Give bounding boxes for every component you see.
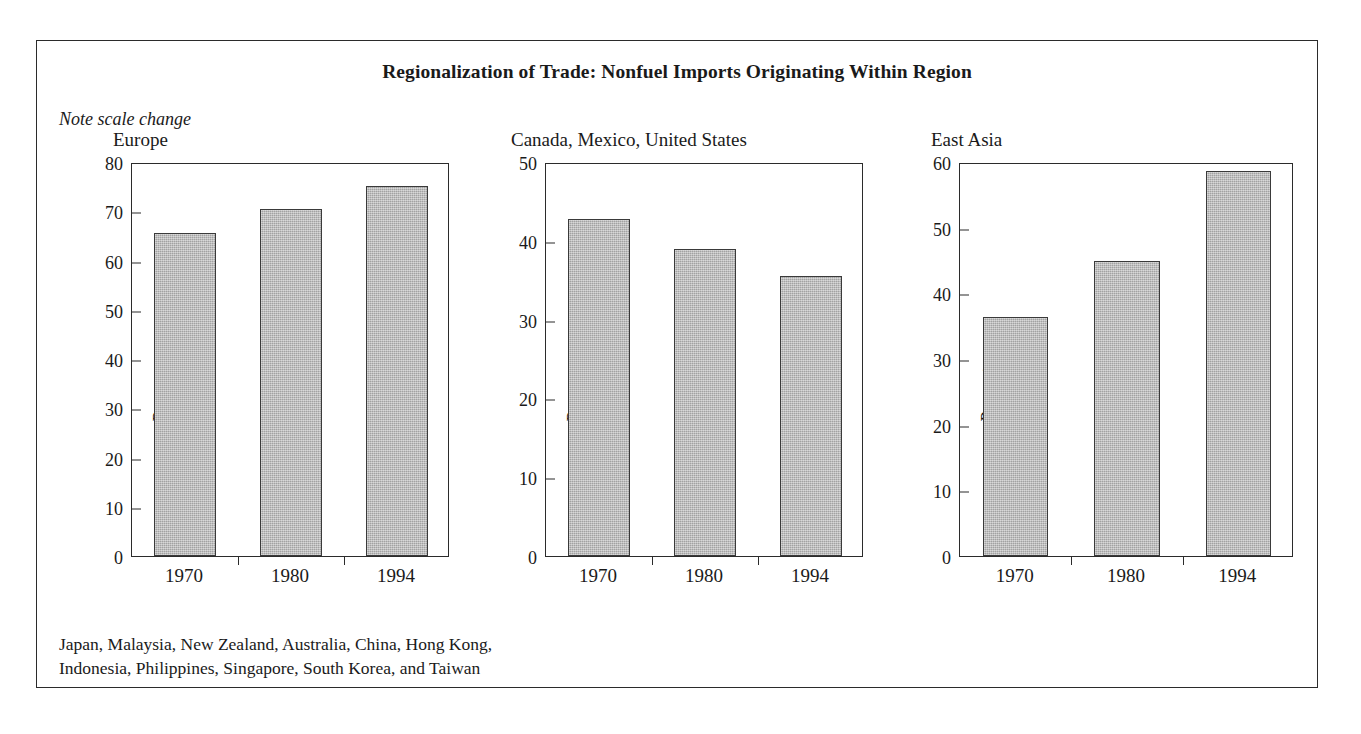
y-axis-tick-mark <box>132 311 141 312</box>
y-axis-tick-label: 50 <box>506 155 546 173</box>
bars-layer <box>960 164 1292 556</box>
page-title: Regionalization of Trade: Nonfuel Import… <box>37 61 1317 83</box>
x-axis-tick-label: 1970 <box>165 565 203 587</box>
y-axis-tick-label: 0 <box>92 549 132 567</box>
y-axis-tick-label: 20 <box>506 391 546 409</box>
y-axis-tick-mark <box>132 262 141 263</box>
x-axis-tick-mark <box>758 556 759 565</box>
y-axis-tick-label: 40 <box>920 286 960 304</box>
bar <box>780 276 842 556</box>
y-axis-tick-label: 30 <box>92 401 132 419</box>
y-axis-tick-mark <box>960 295 969 296</box>
y-axis-tick-mark <box>960 361 969 362</box>
note-scale-change: Note scale change <box>59 109 191 130</box>
bar <box>674 249 736 556</box>
x-axis-tick-mark <box>344 556 345 565</box>
bar <box>366 186 428 556</box>
x-axis-tick-label: 1994 <box>791 565 829 587</box>
chart-panel-europe: Europe Percent 01020304050607080 1970198… <box>55 129 459 629</box>
y-axis-tick-label: 60 <box>920 155 960 173</box>
chart-panel-north-america: Canada, Mexico, United States Percent 01… <box>469 129 873 629</box>
y-axis-tick-label: 30 <box>506 313 546 331</box>
y-axis-tick-mark <box>546 242 555 243</box>
y-axis-tick-mark <box>132 213 141 214</box>
x-axis-tick-mark <box>652 556 653 565</box>
y-axis-tick-label: 50 <box>92 303 132 321</box>
y-axis-tick-label: 50 <box>920 221 960 239</box>
panel-title: Europe <box>113 129 168 151</box>
y-axis-tick-mark <box>132 361 141 362</box>
bar <box>260 209 322 556</box>
y-axis-tick-mark <box>546 479 555 480</box>
x-axis-tick-label: 1980 <box>271 565 309 587</box>
bars-layer <box>546 164 862 556</box>
plot-area: Percent 01020304050 <box>545 163 863 557</box>
y-axis-tick-label: 10 <box>92 500 132 518</box>
x-axis-tick-label: 1980 <box>1107 565 1145 587</box>
y-axis-tick-label: 20 <box>920 418 960 436</box>
y-axis-tick-label: 0 <box>920 549 960 567</box>
plot-area: Percent 0102030405060 <box>959 163 1293 557</box>
y-axis-tick-label: 0 <box>506 549 546 567</box>
x-axis-tick-mark <box>1183 556 1184 565</box>
bar <box>1094 261 1159 556</box>
x-axis-tick-label: 1970 <box>579 565 617 587</box>
chart-panel-east-asia: East Asia Percent 0102030405060 19701980… <box>883 129 1303 629</box>
y-axis-tick-mark <box>132 508 141 509</box>
y-axis-tick-label: 70 <box>92 204 132 222</box>
bar <box>983 317 1048 556</box>
panel-title: Canada, Mexico, United States <box>511 129 747 151</box>
x-axis-tick-mark <box>238 556 239 565</box>
footnote-line-1: Japan, Malaysia, New Zealand, Australia,… <box>59 633 492 657</box>
y-axis-tick-mark <box>546 400 555 401</box>
y-axis-tick-label: 60 <box>92 254 132 272</box>
y-axis-tick-label: 40 <box>92 352 132 370</box>
x-axis-tick-mark <box>1071 556 1072 565</box>
y-axis-tick-label: 10 <box>920 483 960 501</box>
y-axis-tick-label: 40 <box>506 234 546 252</box>
y-axis-tick-label: 80 <box>92 155 132 173</box>
x-axis-tick-label: 1980 <box>685 565 723 587</box>
y-axis-tick-mark <box>960 492 969 493</box>
y-axis-tick-mark <box>546 321 555 322</box>
y-axis-tick-label: 20 <box>92 451 132 469</box>
x-axis-tick-label: 1994 <box>1218 565 1256 587</box>
panel-title: East Asia <box>931 129 1002 151</box>
y-axis-tick-mark <box>132 410 141 411</box>
bars-layer <box>132 164 448 556</box>
bar <box>568 219 630 556</box>
plot-area: Percent 01020304050607080 <box>131 163 449 557</box>
figure-frame: Regionalization of Trade: Nonfuel Import… <box>36 40 1318 688</box>
footnote: Japan, Malaysia, New Zealand, Australia,… <box>59 633 492 680</box>
x-axis-tick-label: 1970 <box>996 565 1034 587</box>
y-axis-tick-label: 10 <box>506 470 546 488</box>
x-axis-tick-label: 1994 <box>377 565 415 587</box>
y-axis-tick-mark <box>960 426 969 427</box>
bar <box>154 233 216 556</box>
bar <box>1206 171 1271 556</box>
footnote-line-2: Indonesia, Philippines, Singapore, South… <box>59 657 492 681</box>
y-axis-tick-mark <box>132 459 141 460</box>
y-axis-tick-mark <box>960 229 969 230</box>
y-axis-tick-label: 30 <box>920 352 960 370</box>
